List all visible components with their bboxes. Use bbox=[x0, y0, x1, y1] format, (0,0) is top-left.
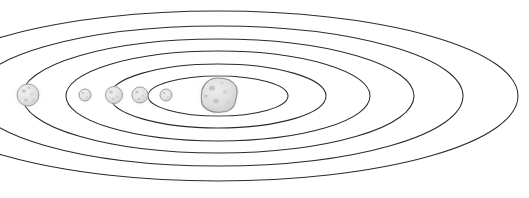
central-star-crater-1 bbox=[209, 85, 215, 90]
planet-2-crater-3 bbox=[138, 98, 141, 100]
planet-2-crater-2 bbox=[141, 95, 144, 98]
solar-system-diagram bbox=[0, 0, 529, 198]
planet-4-crater-1 bbox=[82, 92, 85, 94]
planet-3 bbox=[102, 83, 127, 108]
planet-5-crater-1 bbox=[22, 89, 26, 92]
planet-1-crater-2 bbox=[167, 96, 169, 98]
planet-5-crater-3 bbox=[24, 99, 28, 102]
central-star-crater-5 bbox=[204, 94, 208, 97]
planet-5-crater-4 bbox=[32, 99, 35, 101]
planet-4-body bbox=[79, 89, 91, 101]
planet-2-crater-1 bbox=[135, 91, 139, 94]
central-star-crater-4 bbox=[226, 100, 230, 103]
planet-3-crater-1 bbox=[109, 91, 113, 94]
diagram-canvas bbox=[0, 0, 529, 198]
central-star bbox=[193, 70, 243, 120]
planet-3-crater-2 bbox=[115, 96, 118, 99]
planet-3-body bbox=[106, 87, 123, 104]
planet-2 bbox=[128, 83, 152, 107]
planet-1-body bbox=[160, 89, 172, 101]
planet-4 bbox=[76, 86, 95, 105]
planet-2-body bbox=[132, 87, 148, 103]
planet-5 bbox=[12, 79, 44, 111]
planet-1-crater-1 bbox=[163, 92, 166, 94]
planet-5-crater-2 bbox=[30, 92, 34, 95]
central-star-crater-6 bbox=[220, 82, 223, 85]
planet-1 bbox=[157, 86, 175, 104]
central-star-crater-3 bbox=[213, 99, 219, 103]
planet-5-crater-5 bbox=[28, 87, 31, 89]
planet-3-crater-3 bbox=[112, 98, 115, 100]
central-star-crater-2 bbox=[223, 90, 228, 94]
planet-4-crater-2 bbox=[86, 96, 88, 98]
